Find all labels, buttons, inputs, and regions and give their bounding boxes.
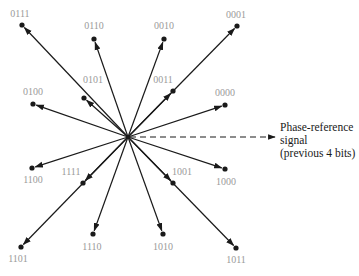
reference-label-line-1: Phase-reference (280, 121, 353, 133)
vector-arrow-1011 (128, 137, 234, 246)
point-dot-0101 (81, 95, 86, 100)
point-label-1000: 1000 (216, 176, 236, 187)
point-dot-1111 (80, 180, 85, 185)
point-dot-1010 (160, 231, 165, 236)
point-label-0110: 0110 (84, 20, 104, 31)
point-dot-1110 (90, 231, 95, 236)
point-dot-1000 (222, 166, 227, 171)
point-label-1011: 1011 (226, 254, 246, 265)
point-dot-0011 (170, 88, 175, 93)
point-label-0001: 0001 (226, 9, 246, 20)
point-dot-1011 (233, 245, 238, 250)
reference-label-line-2: signal (280, 134, 307, 147)
point-dot-0100 (30, 101, 35, 106)
origin-point (126, 135, 130, 139)
point-label-1001: 1001 (172, 166, 192, 177)
point-label-1110: 1110 (82, 241, 101, 252)
point-dot-0000 (222, 102, 227, 107)
vector-arrow-0010 (128, 42, 163, 137)
point-label-0100: 0100 (23, 86, 43, 97)
point-dot-1100 (29, 165, 34, 170)
point-dot-0110 (91, 36, 96, 41)
point-label-1010: 1010 (153, 241, 173, 252)
point-label-1100: 1100 (23, 174, 43, 185)
point-dot-0111 (19, 22, 24, 27)
point-label-0101: 0101 (83, 74, 103, 85)
vector-arrow-0111 (24, 28, 128, 138)
point-label-1101: 1101 (8, 253, 28, 264)
vector-arrow-0100 (36, 105, 128, 137)
phase-reference: Phase-reference signal (previous 4 bits) (130, 121, 356, 160)
point-label-0111: 0111 (10, 8, 29, 19)
vector-arrow-1110 (94, 137, 128, 231)
point-label-0000: 0000 (215, 87, 235, 98)
point-dot-1001 (170, 180, 175, 185)
vector-arrow-1101 (23, 137, 128, 245)
vector-arrow-1010 (128, 137, 162, 231)
point-label-0011: 0011 (153, 74, 173, 85)
point-dot-1101 (18, 244, 23, 249)
point-label-1111: 1111 (62, 166, 81, 177)
vector-arrow-1000 (128, 137, 222, 168)
point-dot-0010 (161, 36, 166, 41)
point-label-0010: 0010 (154, 20, 174, 31)
reference-label-line-3: (previous 4 bits) (280, 147, 356, 160)
point-dot-0001 (234, 23, 239, 28)
vector-arrow-0000 (128, 106, 222, 137)
phase-constellation-diagram: 0111011000100001010100110100000011001111… (0, 0, 359, 276)
